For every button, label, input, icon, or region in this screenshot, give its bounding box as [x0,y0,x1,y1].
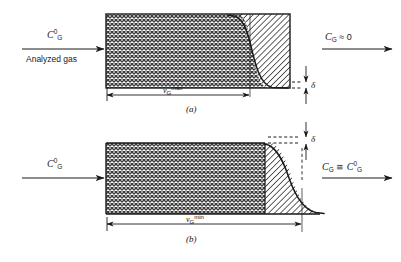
panel-a-outlet-concentration-label: CG ≈ 0 [325,31,352,43]
panel-a-group [22,14,392,104]
panel-a-tag: (a) [186,104,197,114]
panel-a-dimension-label: vGmax [163,85,183,96]
panel-a-inlet-caption: Analyzed gas [26,54,77,64]
panel-b-inlet-concentration-label: C0G [47,157,62,170]
panel-a-inlet-concentration-label: C0G [47,28,62,41]
panel-b-dimension-label: vGmin [186,214,204,225]
panel-b-bed-breakthrough [265,143,320,214]
panel-b-tag: (b) [186,234,197,244]
panel-b-outlet-concentration-label: CG ≅ C0G [322,160,362,173]
panel-b-bed-saturated [106,143,265,214]
panel-b-delta-label: δ [311,134,315,144]
figure-canvas: C0G Analyzed gas CG ≈ 0 vGmax δ (a) C0G … [0,0,401,262]
panel-a-bed-saturated [106,14,228,88]
panel-a-delta-label: δ [311,80,315,90]
panel-b-group [22,122,392,232]
